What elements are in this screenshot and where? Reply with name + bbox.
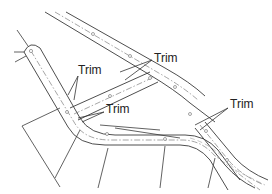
trim-label-right: Trim xyxy=(230,97,254,111)
trim-label-top: Trim xyxy=(154,51,178,65)
diagram-canvas: Trim Trim Trim Trim xyxy=(0,0,272,194)
trim-label-left: Trim xyxy=(78,63,102,77)
trim-label-middle: Trim xyxy=(106,102,130,116)
right-road xyxy=(189,113,269,189)
top-road xyxy=(45,12,215,122)
